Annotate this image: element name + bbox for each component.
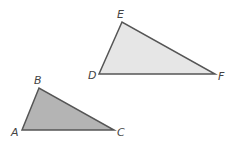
triangle-def — [99, 22, 215, 74]
triangle-abc — [22, 88, 114, 130]
vertex-label-f: F — [218, 70, 225, 83]
vertex-label-e: E — [117, 8, 124, 21]
vertex-label-d: D — [88, 69, 96, 82]
triangles-diagram: D E F A B C — [0, 0, 235, 146]
vertex-label-b: B — [34, 74, 42, 87]
vertex-label-a: A — [10, 126, 19, 139]
vertex-label-c: C — [117, 126, 125, 139]
